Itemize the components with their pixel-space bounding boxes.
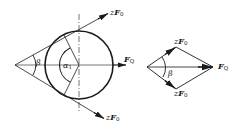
- lower-belt-arrow: [94, 113, 104, 119]
- subscript: 0: [184, 92, 188, 98]
- upper-right-side: [176, 47, 213, 67]
- label-top-force-right: zF0: [174, 37, 187, 47]
- upper-force-arrow: [165, 48, 175, 55]
- label-top-force-left: zF0: [110, 8, 123, 18]
- label-resultant: FQ: [218, 62, 228, 72]
- subscript: 0: [184, 40, 188, 46]
- lower-force-arrow: [165, 81, 175, 89]
- subscript: 0: [120, 11, 124, 17]
- label-beta-left: β: [36, 59, 41, 67]
- force-parallelogram: [147, 47, 213, 89]
- lower-belt-line: [15, 65, 103, 118]
- angle-symbol: β: [168, 69, 173, 78]
- lower-right-side: [176, 67, 213, 89]
- subscript: 1: [68, 64, 72, 70]
- subscript: Q: [130, 58, 135, 64]
- subscript: Q: [224, 65, 229, 71]
- label-bottom-force-left: zF0: [106, 113, 119, 123]
- label-alpha: α1: [63, 62, 72, 71]
- upper-belt-arrow: [98, 14, 108, 20]
- label-beta-right: β: [168, 70, 173, 78]
- label-bottom-force-right: zF0: [174, 89, 187, 99]
- label-axial-force: FQ: [124, 55, 134, 65]
- angle-symbol: β: [36, 58, 41, 67]
- subscript: 0: [116, 116, 120, 122]
